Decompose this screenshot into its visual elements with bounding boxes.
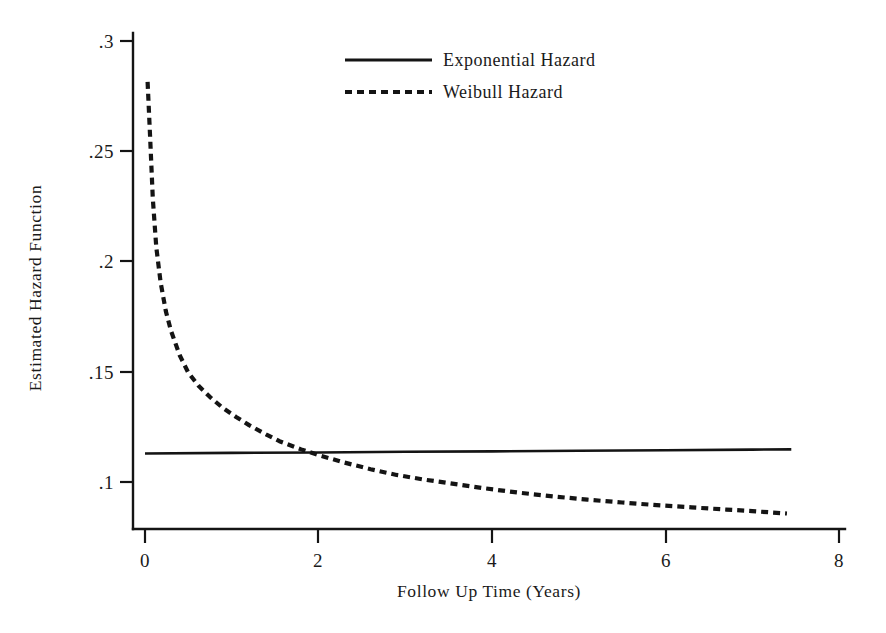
y-tick-label: .1: [99, 472, 114, 493]
chart-canvas: .3 .25 .2 .15 .1 0 2 4 6 8 Exponential H…: [0, 0, 886, 633]
y-tick-label: .3: [99, 31, 114, 52]
y-axis-title: Estimated Hazard Function: [25, 185, 45, 391]
x-axis-title: Follow Up Time (Years): [397, 581, 581, 601]
y-tick-label: .25: [89, 141, 114, 162]
x-tick-label: 2: [313, 550, 323, 571]
hazard-function-chart: .3 .25 .2 .15 .1 0 2 4 6 8 Exponential H…: [0, 0, 886, 633]
x-tick-label: 6: [661, 550, 671, 571]
y-axis-ticks: [120, 41, 133, 482]
series-line-exponential-hazard: [145, 449, 791, 453]
chart-legend: Exponential Hazard Weibull Hazard: [345, 50, 595, 102]
y-tick-label: .2: [99, 251, 114, 272]
y-tick-label: .15: [89, 362, 114, 383]
x-tick-label: 4: [487, 550, 497, 571]
x-tick-label: 8: [834, 550, 844, 571]
x-tick-label: 0: [140, 550, 150, 571]
x-axis-ticks: [145, 529, 839, 543]
legend-label-exponential: Exponential Hazard: [443, 50, 595, 70]
legend-label-weibull: Weibull Hazard: [443, 82, 563, 102]
